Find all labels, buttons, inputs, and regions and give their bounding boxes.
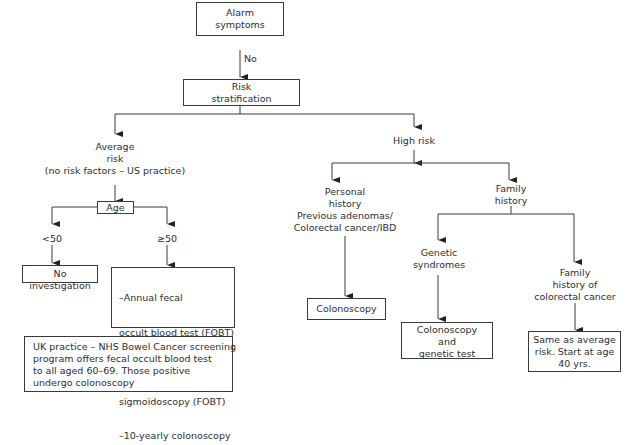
uk-line-1: UK practice – NHS Bowel Cancer screening (33, 341, 232, 353)
col-genetic-line-2: and (402, 336, 492, 348)
screening-line-4: sigmoidoscopy (FOBT) (119, 396, 234, 408)
average-line-3: (no risk factors – US practice) (40, 165, 190, 177)
col-genetic-line-1: Colonoscopy (402, 324, 492, 336)
same-as-average-box: Same as average risk. Start at age 40 yr… (528, 331, 621, 372)
risk-line-1: Risk (184, 81, 299, 93)
risk-line-2: stratification (184, 93, 299, 105)
uk-line-2: program offers fecal occult blood test (33, 353, 232, 365)
uk-line-3: to all aged 60–69. Those positive (33, 365, 232, 377)
alarm-symptoms-box: Alarm symptoms (196, 2, 284, 36)
high-risk-node: High risk (379, 135, 449, 147)
col-genetic-line-3: genetic test (402, 348, 492, 360)
family-history-node: Family history (481, 183, 541, 207)
same-avg-line-3: 40 yrs. (529, 358, 620, 370)
genetic-syndromes-node: Genetic syndromes (406, 247, 472, 271)
personal-line-1: Personal (280, 186, 410, 198)
no-investigation-text: No investigation (29, 268, 91, 291)
family-line-2: history (481, 195, 541, 207)
alarm-line-1: Alarm (197, 7, 283, 19)
uk-practice-box: UK practice – NHS Bowel Cancer screening… (24, 336, 233, 392)
colonoscopy-box: Colonoscopy (307, 298, 386, 320)
personal-line-3: Previous adenomas/ (280, 210, 410, 222)
family-crc-line-3: colorectal cancer (530, 291, 620, 303)
uk-line-4: undergo colonoscopy (33, 377, 232, 389)
family-crc-line-1: Family (530, 267, 620, 279)
same-avg-line-2: risk. Start at age (529, 346, 620, 358)
family-crc-line-2: history of (530, 279, 620, 291)
average-line-1: Average (40, 141, 190, 153)
screening-line-5: –10-yearly colonoscopy (119, 430, 234, 442)
alarm-line-2: symptoms (197, 19, 283, 31)
personal-line-2: history (280, 198, 410, 210)
same-avg-line-1: Same as average (529, 334, 620, 346)
age-box: Age (97, 201, 134, 214)
personal-history-node: Personal history Previous adenomas/ Colo… (280, 186, 410, 234)
genetic-line-1: Genetic (406, 247, 472, 259)
high-risk-text: High risk (393, 135, 435, 146)
ge50-text: ≥50 (157, 233, 177, 244)
ge50-label: ≥50 (152, 233, 182, 245)
lt50-text: <50 (42, 233, 62, 244)
average-risk-node: Average risk (no risk factors – US pract… (40, 141, 190, 177)
family-history-crc-node: Family history of colorectal cancer (530, 267, 620, 303)
colonoscopy-genetic-test-box: Colonoscopy and genetic test (401, 322, 493, 359)
lt50-label: <50 (37, 233, 67, 245)
colonoscopy-text: Colonoscopy (316, 303, 376, 314)
screening-line-1: –Annual fecal (119, 292, 234, 304)
screening-options-box: –Annual fecal occult blood test (FOBT) –… (111, 267, 235, 328)
age-label: Age (106, 202, 124, 213)
no-label: No (244, 53, 268, 65)
personal-line-4: Colorectal cancer/IBD (280, 222, 410, 234)
average-line-2: risk (40, 153, 190, 165)
genetic-line-2: syndromes (406, 259, 472, 271)
no-label-text: No (244, 53, 257, 64)
no-investigation-box: No investigation (22, 265, 98, 283)
family-line-1: Family (481, 183, 541, 195)
risk-stratification-box: Risk stratification (183, 79, 300, 106)
